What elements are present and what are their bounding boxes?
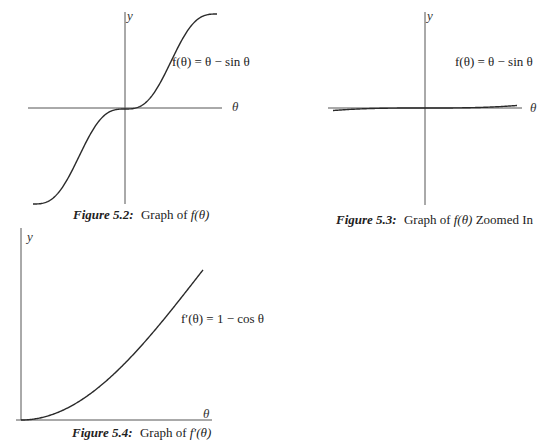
fig52-x-label: θ bbox=[232, 99, 239, 114]
figure-5-4: y θ f′(θ) = 1 − cos θ Figure 5.4: Graph … bbox=[16, 228, 264, 440]
fig53-caption-suffix: Zoomed In bbox=[476, 212, 534, 227]
fig54-curve-fprime bbox=[21, 270, 203, 420]
fig54-caption-text: Graph of bbox=[140, 425, 190, 440]
fig53-caption: Figure 5.3: Graph of f(θ) Zoomed In bbox=[335, 212, 534, 227]
fig53-y-label: y bbox=[425, 8, 433, 23]
figure-page: y θ f(θ) = θ − sin θ Figure 5.2: Graph o… bbox=[0, 0, 541, 446]
fig53-caption-text: Graph of bbox=[404, 212, 454, 227]
fig54-x-label: θ bbox=[203, 406, 210, 421]
fig52-caption-prefix: Figure 5.2: bbox=[72, 207, 134, 222]
fig53-caption-prefix: Figure 5.3: bbox=[335, 212, 397, 227]
fig54-caption-math: f′(θ) bbox=[190, 425, 212, 440]
fig52-caption: Figure 5.2: Graph of f(θ) bbox=[72, 207, 209, 222]
figure-5-3: y θ f(θ) = θ − sin θ Figure 5.3: Graph o… bbox=[328, 8, 537, 227]
fig54-caption-prefix: Figure 5.4: bbox=[71, 425, 133, 440]
figure-5-2: y θ f(θ) = θ − sin θ Figure 5.2: Graph o… bbox=[28, 8, 250, 222]
fig52-caption-math: f(θ) bbox=[191, 207, 210, 222]
fig53-equation: f(θ) = θ − sin θ bbox=[455, 54, 533, 69]
fig54-caption: Figure 5.4: Graph of f′(θ) bbox=[71, 425, 211, 440]
fig52-equation: f(θ) = θ − sin θ bbox=[172, 54, 250, 69]
fig54-equation: f′(θ) = 1 − cos θ bbox=[181, 311, 264, 326]
fig52-caption-text: Graph of bbox=[141, 207, 191, 222]
fig53-x-label: θ bbox=[530, 100, 537, 115]
fig54-y-label: y bbox=[25, 229, 33, 244]
fig52-y-label: y bbox=[125, 8, 133, 23]
fig53-caption-math: f(θ) bbox=[454, 212, 473, 227]
